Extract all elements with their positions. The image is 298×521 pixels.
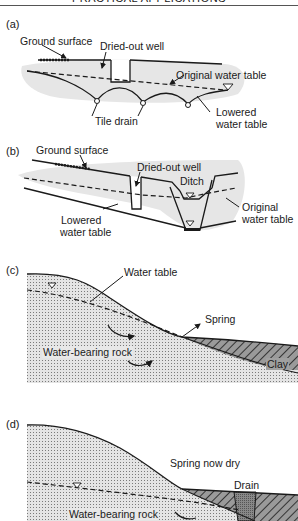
panel-a-original-water-table-label: Original water table bbox=[176, 69, 266, 81]
panel-b-original-label-2: water table bbox=[242, 213, 293, 225]
panel-b-trench-bottom bbox=[184, 228, 200, 231]
panel-b-original-label-1: Original bbox=[242, 201, 278, 213]
panel-a-id: (a) bbox=[6, 18, 19, 30]
panel-d-id: (d) bbox=[6, 418, 19, 430]
panel-a-ground-surface-label: Ground surface bbox=[20, 35, 92, 47]
panel-a-dried-out-well-label: Dried-out well bbox=[100, 40, 164, 52]
panel-d-drain-label: Drain bbox=[234, 479, 259, 491]
panel-a-tile-drain-2 bbox=[141, 101, 146, 106]
panel-c-water-bearing-rock-label: Water-bearing rock bbox=[42, 346, 133, 358]
panel-b-lowered-label-2: water table bbox=[60, 226, 111, 238]
panel-b-lowered-label-1: Lowered bbox=[61, 214, 101, 226]
panel-d-water-bearing-rock-label: Water-bearing rock bbox=[68, 508, 159, 520]
panel-b-ditch-label: Ditch bbox=[180, 175, 204, 187]
panel-d-diagram bbox=[27, 425, 298, 521]
panel-d-spring-now-dry-label: Spring now dry bbox=[170, 457, 240, 469]
panel-c-water-table-label: Water table bbox=[124, 266, 177, 278]
panel-c-water-bearing-rock bbox=[27, 274, 298, 383]
panel-b-well bbox=[130, 176, 141, 209]
panel-b-diagram bbox=[18, 155, 245, 231]
panel-c-id: (c) bbox=[6, 264, 19, 276]
panel-a-lowered-label-1: Lowered bbox=[216, 106, 256, 118]
panel-b-ground-surface-label: Ground surface bbox=[36, 144, 108, 156]
panel-c-clay-label: Clay bbox=[266, 358, 289, 370]
panel-a-tile-drain-3 bbox=[186, 103, 191, 108]
panel-b-dried-out-well-label: Dried-out well bbox=[137, 161, 201, 173]
panel-a-well bbox=[111, 60, 130, 82]
panel-b-id: (b) bbox=[6, 145, 19, 157]
panel-c-spring-label: Spring bbox=[205, 313, 235, 325]
panel-a-lowered-label-2: water table bbox=[216, 118, 267, 130]
panel-c-diagram bbox=[27, 274, 298, 383]
panel-a-tile-drain-label: Tile drain bbox=[95, 115, 138, 127]
panel-a-tile-drain-1 bbox=[95, 99, 100, 104]
